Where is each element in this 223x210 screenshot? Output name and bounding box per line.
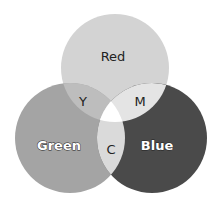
- label-cyan: C: [106, 142, 115, 157]
- label-green: Green: [37, 138, 81, 153]
- label-red: Red: [101, 49, 126, 64]
- label-magenta: M: [134, 94, 145, 109]
- label-yellow: Y: [78, 94, 87, 109]
- label-blue: Blue: [141, 138, 174, 153]
- venn-diagram: Red Green Blue Y M C: [0, 0, 223, 210]
